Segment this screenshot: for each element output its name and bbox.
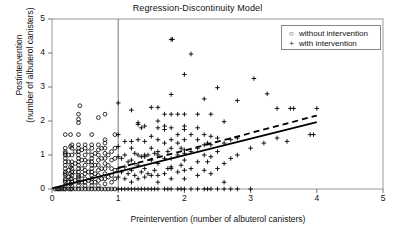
point-plus bbox=[235, 187, 240, 192]
point-plus bbox=[162, 124, 167, 129]
point-plus bbox=[169, 146, 174, 151]
point-plus bbox=[291, 106, 296, 111]
point-plus bbox=[166, 149, 171, 154]
legend-item-with-intervention: + with intervention bbox=[286, 38, 357, 48]
point-plus bbox=[169, 126, 174, 131]
point-plus bbox=[215, 136, 220, 141]
point-plus bbox=[195, 126, 200, 131]
point-plus bbox=[285, 139, 290, 144]
point-plus bbox=[149, 146, 154, 151]
point-plus bbox=[252, 76, 257, 81]
point-plus bbox=[209, 134, 214, 139]
point-plus bbox=[182, 168, 187, 173]
point-plus bbox=[275, 136, 280, 141]
point-plus bbox=[123, 177, 128, 182]
y-tick-label: 5 bbox=[31, 13, 45, 23]
point-plus bbox=[152, 168, 157, 173]
point-plus bbox=[228, 156, 233, 161]
point-plus bbox=[169, 187, 174, 192]
x-tick-label: 5 bbox=[374, 193, 392, 203]
point-circle bbox=[63, 133, 67, 137]
plus-marker-icon: + bbox=[286, 39, 297, 48]
point-plus bbox=[175, 112, 180, 117]
data-points bbox=[53, 37, 319, 191]
point-circle bbox=[96, 143, 100, 147]
point-plus bbox=[235, 98, 240, 103]
x-tick-label: 3 bbox=[242, 193, 260, 203]
point-circle bbox=[96, 116, 100, 120]
legend-item-without-intervention: ○ without intervention bbox=[286, 28, 368, 38]
series-circle bbox=[53, 104, 116, 191]
point-plus bbox=[156, 173, 161, 178]
point-plus bbox=[209, 187, 214, 192]
point-plus bbox=[156, 126, 161, 131]
point-plus bbox=[182, 158, 187, 163]
point-plus bbox=[162, 112, 167, 117]
point-plus bbox=[142, 166, 147, 171]
point-circle bbox=[103, 182, 107, 186]
point-plus bbox=[169, 112, 174, 117]
y-axis-title-wrapper: Postintervention (number of albuterol ca… bbox=[14, 0, 36, 160]
y-tick-label: 2 bbox=[31, 115, 45, 125]
point-circle bbox=[69, 133, 73, 137]
point-plus bbox=[202, 97, 207, 102]
point-plus bbox=[202, 153, 207, 158]
point-plus bbox=[209, 171, 214, 176]
point-plus bbox=[182, 72, 187, 77]
legend: ○ without intervention + with interventi… bbox=[281, 25, 381, 50]
point-plus bbox=[195, 112, 200, 117]
y-tick-label: 4 bbox=[31, 47, 45, 57]
point-plus bbox=[202, 132, 207, 137]
point-circle bbox=[106, 163, 110, 167]
point-plus bbox=[182, 124, 187, 129]
point-circle bbox=[103, 112, 107, 116]
point-plus bbox=[129, 180, 134, 185]
x-tick-label: 1 bbox=[109, 193, 127, 203]
y-axis-title: Postintervention (number of albuterol ca… bbox=[14, 0, 36, 160]
point-plus bbox=[315, 106, 320, 111]
point-plus bbox=[182, 137, 187, 142]
point-plus bbox=[162, 141, 167, 146]
point-plus bbox=[248, 187, 253, 192]
point-circle bbox=[87, 150, 91, 154]
point-plus bbox=[123, 153, 128, 158]
point-plus bbox=[182, 177, 187, 182]
point-circle bbox=[83, 163, 87, 167]
legend-label: with intervention bbox=[297, 39, 357, 48]
point-plus bbox=[136, 177, 141, 182]
point-plus bbox=[169, 137, 174, 142]
point-circle bbox=[110, 180, 114, 184]
point-plus bbox=[215, 85, 220, 90]
x-tick-label: 4 bbox=[308, 193, 326, 203]
point-plus bbox=[156, 137, 161, 142]
point-plus bbox=[142, 175, 147, 180]
point-plus bbox=[129, 108, 134, 113]
series-plus bbox=[116, 37, 319, 191]
point-circle bbox=[110, 150, 114, 154]
point-plus bbox=[195, 137, 200, 142]
point-plus bbox=[175, 170, 180, 175]
point-circle bbox=[77, 112, 81, 116]
point-plus bbox=[156, 105, 161, 110]
point-plus bbox=[215, 149, 220, 154]
point-plus bbox=[126, 171, 131, 176]
point-plus bbox=[189, 166, 194, 171]
point-plus bbox=[202, 168, 207, 173]
chart-figure: Regression-Discontinuity Model Preinterv… bbox=[0, 0, 395, 234]
point-plus bbox=[116, 101, 121, 106]
point-plus bbox=[248, 146, 253, 151]
y-tick-label: 1 bbox=[31, 149, 45, 159]
point-plus bbox=[182, 187, 187, 192]
point-plus bbox=[123, 139, 128, 144]
point-plus bbox=[175, 132, 180, 137]
point-plus bbox=[228, 187, 233, 192]
legend-label: without intervention bbox=[297, 29, 368, 38]
point-plus bbox=[195, 160, 200, 165]
point-plus bbox=[189, 187, 194, 192]
point-circle bbox=[77, 133, 81, 137]
x-tick-label: 2 bbox=[175, 193, 193, 203]
point-plus bbox=[222, 180, 227, 185]
point-circle bbox=[83, 153, 87, 157]
point-plus bbox=[222, 119, 227, 124]
y-axis-title-line2: (number of albuterol canisters) bbox=[25, 7, 35, 122]
